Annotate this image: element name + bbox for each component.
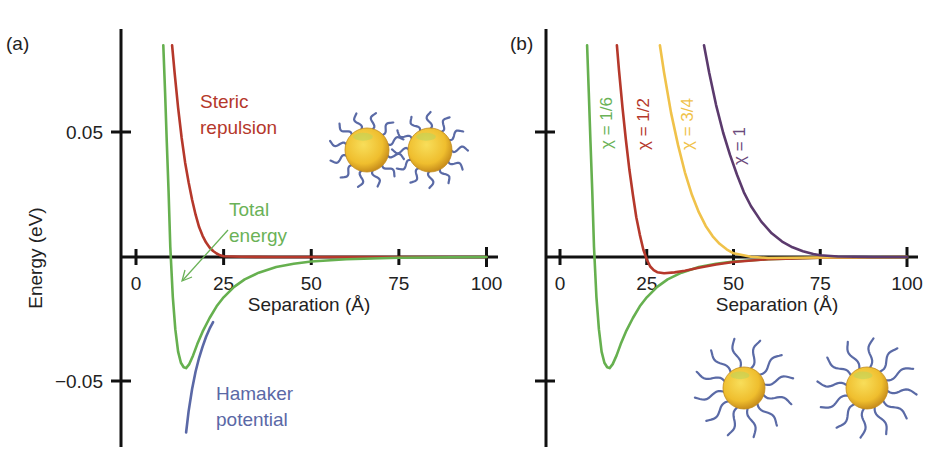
ligand (878, 348, 897, 372)
curves-b (587, 45, 907, 368)
ligand (732, 339, 741, 370)
figure: (a) Energy (eV) 0.05 −0.05 0255075100 Se… (0, 0, 940, 467)
chi-label-3-4: χ = 3/4 (678, 98, 697, 150)
ligand (341, 165, 354, 178)
ligand (410, 168, 420, 183)
ligand (450, 147, 468, 152)
highlight (416, 133, 436, 141)
steric-label: Steric (200, 91, 249, 112)
x-tick-label: 0 (131, 273, 142, 294)
x-ticks-a: 0255075100 (131, 247, 503, 294)
x-tick-label: 75 (388, 273, 409, 294)
series-line (617, 45, 907, 273)
y-tick-label-top: 0.05 (66, 122, 103, 143)
ligand (386, 137, 404, 145)
ligand (757, 402, 777, 426)
ligand (827, 358, 851, 377)
series-line (660, 45, 907, 258)
ligand (695, 391, 726, 400)
ligand (428, 170, 433, 188)
ligand (427, 112, 432, 130)
steric-label-2: repulsion (200, 117, 277, 138)
ligand (728, 406, 739, 435)
ligand (817, 382, 848, 387)
ligand (340, 124, 353, 137)
ligand (711, 350, 731, 374)
ligand (868, 338, 873, 369)
ligand (392, 148, 410, 153)
panel-b-label: (b) (510, 33, 533, 54)
x-tick-label: 100 (471, 273, 503, 294)
ligand (882, 399, 906, 418)
ligand (763, 376, 794, 385)
ligand (884, 368, 913, 380)
highlight (353, 133, 373, 141)
x-axis-title-b: Separation (Å) (716, 294, 839, 315)
ligand (382, 163, 395, 176)
x-tick-label: 75 (810, 273, 831, 294)
ligand (358, 170, 363, 187)
x-tick-label: 50 (301, 273, 322, 294)
ligand (331, 155, 349, 163)
highlight (731, 372, 750, 380)
ligand (750, 341, 761, 370)
chi-label-1: χ = 1 (730, 127, 749, 165)
ligand (875, 405, 887, 434)
x-axis-title-a: Separation (Å) (248, 294, 371, 315)
ligand (330, 141, 347, 146)
ligand (372, 169, 380, 187)
hamaker-label: Hamaker (216, 383, 294, 404)
ligand (397, 160, 413, 170)
ligand (861, 407, 866, 438)
nanoparticle-pair-close-icon (330, 112, 468, 188)
ligand (371, 113, 376, 130)
hamaker-label-2: potential (216, 409, 288, 430)
ligand (397, 130, 412, 140)
panel-b: (b) 0255075100 Separation (Å) χ = 1/6 χ … (510, 29, 923, 447)
panel-a-label: (a) (6, 33, 29, 54)
ligand (387, 154, 404, 159)
ligand (448, 160, 463, 170)
ligand (447, 131, 463, 141)
ligand (706, 401, 730, 421)
ligand (758, 355, 782, 375)
x-tick-label: 0 (555, 273, 566, 294)
y-tick-label-bottom: −0.05 (55, 371, 103, 392)
x-tick-label: 100 (891, 273, 923, 294)
ligand (747, 407, 756, 438)
ligand (440, 117, 450, 132)
ligand (886, 389, 917, 394)
ligand (380, 123, 393, 136)
y-axis-title: Energy (eV) (25, 207, 46, 308)
ligand (762, 394, 791, 405)
ligand (847, 342, 859, 371)
highlight (854, 372, 873, 380)
ligand (697, 372, 726, 383)
nanoparticle-pair-apart-icon (695, 338, 917, 437)
ligand (411, 117, 421, 133)
x-tick-label: 50 (723, 273, 744, 294)
ligand (440, 167, 450, 183)
ligand (837, 403, 856, 427)
chi-label-1-2: χ = 1/2 (634, 98, 653, 150)
chi-label-1-6: χ = 1/6 (597, 97, 616, 149)
panel-a: (a) Energy (eV) 0.05 −0.05 0255075100 Se… (6, 29, 502, 447)
ligand (821, 396, 850, 408)
total-energy-label-2: energy (229, 225, 288, 246)
ligand (354, 114, 362, 132)
total-energy-label: Total (229, 199, 269, 220)
